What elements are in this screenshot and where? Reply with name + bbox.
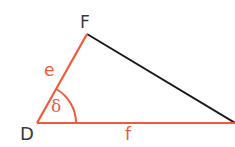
side-fright <box>87 34 235 123</box>
vertex-label-d: D <box>20 125 34 143</box>
angle-label-delta: δ <box>51 98 61 115</box>
triangle-diagram <box>0 0 235 147</box>
side-label-e: e <box>44 62 54 79</box>
side-label-f: f <box>125 126 131 143</box>
vertex-label-f: F <box>80 14 90 31</box>
